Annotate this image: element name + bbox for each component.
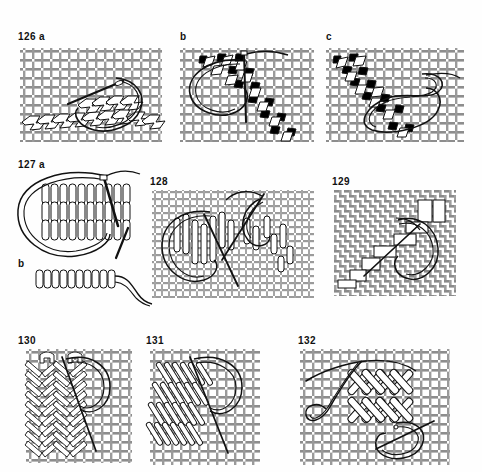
figure-label-127b: b bbox=[18, 258, 25, 269]
figure-label-131: 131 bbox=[146, 335, 164, 346]
raised-band-rows bbox=[42, 184, 130, 240]
raised-cord-single bbox=[36, 270, 115, 288]
figure-panel-126c bbox=[326, 48, 464, 142]
figure-label-126a: 126 a bbox=[18, 31, 45, 42]
figure-panel-129 bbox=[334, 190, 456, 296]
figure-panel-126b bbox=[180, 48, 314, 142]
figure-label-129: 129 bbox=[332, 176, 350, 187]
figure-panel-130 bbox=[26, 349, 132, 463]
illustration-plate: 126 a bbox=[0, 0, 482, 472]
figure-panel-132 bbox=[300, 349, 450, 465]
figure-label-132: 132 bbox=[298, 335, 316, 346]
thread-tail bbox=[115, 276, 152, 304]
figure-label-126b: b bbox=[180, 31, 187, 42]
figure-panel-131 bbox=[150, 349, 260, 465]
figure-panel-126a bbox=[20, 48, 162, 142]
figure-label-126c: c bbox=[326, 31, 332, 42]
figure-panel-127a bbox=[14, 168, 144, 260]
figure-panel-127b bbox=[32, 264, 152, 306]
figure-label-130: 130 bbox=[18, 335, 36, 346]
figure-label-128: 128 bbox=[150, 176, 168, 187]
figure-panel-128 bbox=[152, 190, 314, 298]
